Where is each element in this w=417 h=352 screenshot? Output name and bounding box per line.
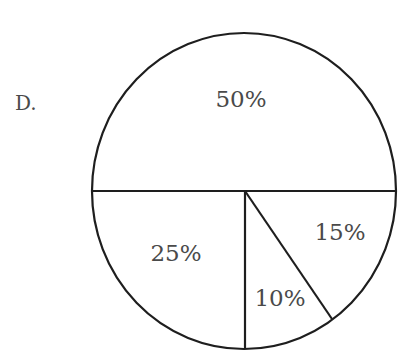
option-letter: D. [15, 91, 37, 115]
slice-label-15: 15% [314, 219, 365, 245]
slice-label-10: 10% [254, 285, 305, 311]
pie-chart: D. 50% 25% 10% 15% [0, 0, 417, 352]
slice-label-25: 25% [150, 240, 201, 266]
slice-label-50: 50% [215, 86, 266, 112]
